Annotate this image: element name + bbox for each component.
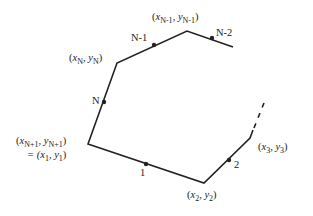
segment-dot-2 <box>227 158 231 162</box>
polygon-diagram <box>0 0 313 216</box>
segment-label-N-2: N-2 <box>216 28 232 39</box>
segment-dot-1 <box>144 162 148 166</box>
vertex-label-3: (x3, y3) <box>258 142 288 153</box>
vertex-label-N-1: (xN-1, yN-1) <box>152 12 199 23</box>
vertex-label-1: (xN+1, yN+1) <box>16 136 66 147</box>
segment-label-2: 2 <box>234 160 239 171</box>
segment-label-N: N <box>92 96 100 107</box>
segment-label-N-1: N-1 <box>131 33 147 44</box>
vertex-label-1-equiv: = (x1, y1) <box>27 150 66 161</box>
segment-dot-N <box>102 100 106 104</box>
segment-label-1: 1 <box>140 168 145 179</box>
vertex-label-2: (x2, y2) <box>187 190 217 201</box>
segment-dot-N-1 <box>152 43 156 47</box>
segment-dot-N-2 <box>210 36 214 40</box>
vertex-label-N: (xN, yN) <box>69 53 102 64</box>
dashed-continuation <box>254 103 264 128</box>
